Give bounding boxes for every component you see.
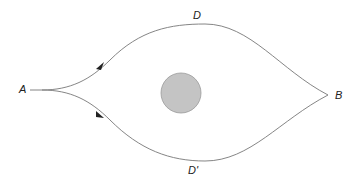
- label-d-prime: D': [188, 165, 198, 176]
- obstacle-circle: [161, 73, 201, 113]
- label-a: A: [19, 84, 26, 95]
- path-diagram: [0, 0, 358, 185]
- upper-arrow-icon: [96, 62, 104, 70]
- label-d: D: [193, 10, 201, 21]
- lower-arrow-icon: [96, 111, 104, 118]
- label-b: B: [335, 90, 342, 101]
